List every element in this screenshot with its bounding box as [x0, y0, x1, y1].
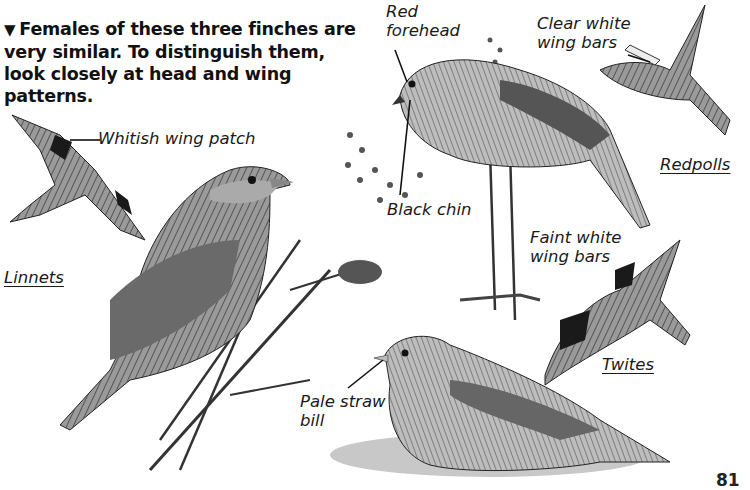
- leader-line-pale-straw-bill: [348, 360, 383, 388]
- species-label-redpolls: Redpolls: [660, 155, 730, 174]
- species-label-twites: Twites: [602, 355, 654, 374]
- label-red-forehead: Red forehead: [386, 2, 460, 40]
- label-clear-white-wing-bars: Clear white wing bars: [537, 14, 631, 52]
- label-black-chin: Black chin: [387, 200, 471, 219]
- intro-paragraph: ▼Females of these three finches are very…: [4, 18, 356, 107]
- intro-text: Females of these three finches are very …: [4, 19, 356, 106]
- species-label-linnets: Linnets: [4, 268, 64, 287]
- label-whitish-wing-patch: Whitish wing patch: [98, 129, 256, 148]
- leader-line-red-forehead: [395, 50, 407, 82]
- redpoll-perched-illustration: [345, 38, 650, 321]
- page-number: 81: [716, 470, 740, 490]
- down-triangle-icon: ▼: [4, 21, 15, 39]
- label-pale-straw-bill: Pale straw bill: [300, 392, 386, 430]
- label-faint-white-wing-bars: Faint white wing bars: [530, 228, 622, 266]
